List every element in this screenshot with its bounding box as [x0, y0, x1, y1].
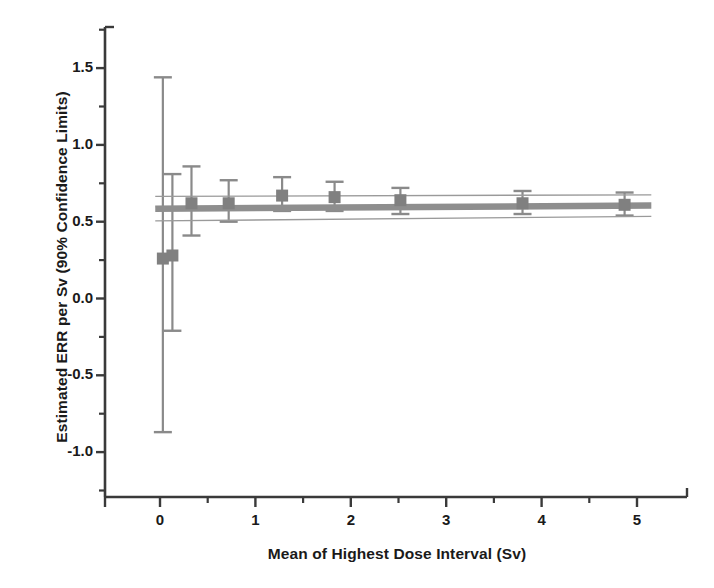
data-point-marker — [166, 249, 178, 261]
x-tick-label: 0 — [145, 511, 175, 528]
y-tick-label: 0.5 — [41, 212, 93, 229]
data-point-marker — [185, 197, 197, 209]
x-tick-label: 1 — [240, 511, 270, 528]
y-tick-label: 0.0 — [41, 289, 93, 306]
y-tick-label: -0.5 — [41, 365, 93, 382]
y-tick-label: 1.5 — [41, 58, 93, 75]
data-point-marker — [394, 194, 406, 206]
x-tick-label: 5 — [622, 511, 652, 528]
y-tick-label: 1.0 — [41, 135, 93, 152]
x-tick-label: 4 — [527, 511, 557, 528]
data-point-marker — [619, 199, 631, 211]
data-point-marker — [329, 191, 341, 203]
x-tick-label: 3 — [431, 511, 461, 528]
axes-group — [96, 27, 687, 507]
data-point-marker — [223, 197, 235, 209]
error-bars-group — [154, 77, 634, 432]
scatter-plot-svg — [0, 0, 714, 588]
figure-container: Estimated ERR per Sv (90% Confidence Lim… — [0, 0, 714, 588]
data-point-marker — [517, 197, 529, 209]
data-markers-group — [157, 190, 631, 265]
y-tick-label: -1.0 — [41, 442, 93, 459]
data-point-marker — [276, 190, 288, 202]
x-tick-label: 2 — [336, 511, 366, 528]
